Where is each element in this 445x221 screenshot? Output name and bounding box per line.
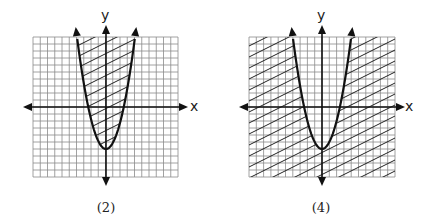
x-axis-label: x (405, 99, 413, 113)
arrow-left-icon (239, 103, 248, 111)
curve-arrow-icon (347, 27, 355, 36)
arrow-right-icon (396, 103, 405, 111)
graph-4-svg (0, 0, 445, 221)
curve-arrow-icon (289, 27, 297, 36)
graph-panel-4: y x (4) (0, 0, 445, 221)
arrow-down-icon (318, 177, 326, 186)
arrow-up-icon (318, 25, 326, 34)
figure-caption: (4) (312, 201, 330, 214)
y-axis-label: y (317, 8, 325, 22)
